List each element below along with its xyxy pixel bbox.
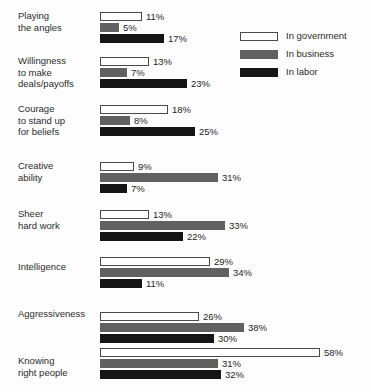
legend-item-label: In business [286,48,334,60]
bar-value-label: 9% [138,161,152,172]
category-label: Knowing right people [18,355,98,378]
legend-swatch-icon [240,50,278,59]
category-label: Sheer hard work [18,208,98,231]
legend-swatch-icon [240,32,278,41]
bar-bus [100,359,218,368]
bar-lab [100,79,187,88]
category-label: Willingness to make deals/payoffs [18,55,98,90]
bar-value-label: 30% [218,333,237,344]
bar-value-label: 5% [123,22,137,33]
bar-value-label: 31% [222,358,241,369]
bar-lab [100,334,214,343]
bar-bus [100,173,218,182]
bar-bus [100,268,229,277]
bar-gov [100,12,142,21]
bar-value-label: 25% [199,126,218,137]
bar-value-label: 32% [225,369,244,380]
bar-gov [100,162,134,171]
legend-item-label: In labor [286,66,318,78]
bar-value-label: 11% [146,278,164,289]
bar-value-label: 26% [203,311,222,322]
bar-value-label: 23% [191,78,210,89]
category-label: Aggressiveness [18,308,98,320]
category-label: Courage to stand up for beliefs [18,103,98,138]
bar-value-label: 31% [222,172,241,183]
bar-value-label: 13% [153,56,172,67]
bar-lab [100,232,183,241]
bar-value-label: 17% [168,33,187,44]
bar-gov [100,210,149,219]
bar-gov [100,312,199,321]
bar-gov [100,348,320,357]
bar-lab [100,127,195,136]
legend-swatch-icon [240,68,278,77]
bar-value-label: 8% [134,115,148,126]
category-label: Creative ability [18,160,98,183]
bar-lab [100,184,127,193]
category-label: Playing the angles [18,10,98,33]
bar-value-label: 7% [131,183,145,194]
bar-gov [100,57,149,66]
bar-value-label: 34% [233,267,252,278]
bar-bus [100,23,119,32]
bar-bus [100,68,127,77]
bar-lab [100,34,164,43]
bar-gov [100,105,168,114]
bar-lab [100,370,221,379]
bar-value-label: 13% [153,209,172,220]
bar-value-label: 38% [248,322,267,333]
bar-value-label: 7% [131,67,145,78]
bar-value-label: 29% [214,256,233,267]
bar-gov [100,257,210,266]
bar-value-label: 11% [146,11,164,22]
legend-item-label: In government [286,30,347,42]
bar-lab [100,279,142,288]
category-label: Intelligence [18,261,98,273]
bar-value-label: 33% [229,220,248,231]
bar-value-label: 18% [172,104,191,115]
bar-value-label: 58% [324,347,343,358]
bar-bus [100,323,244,332]
bar-bus [100,116,130,125]
bar-value-label: 22% [187,231,206,242]
bar-bus [100,221,225,230]
bar-chart: Playing the angles Willingness to make d… [0,0,371,392]
